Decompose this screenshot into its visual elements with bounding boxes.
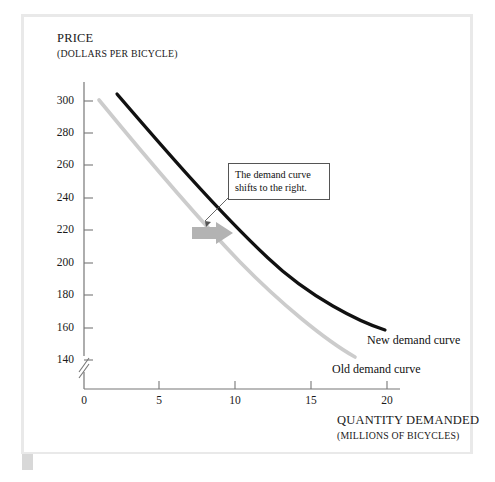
shift-annotation-callout: The demand curve shifts to the right. bbox=[228, 163, 330, 200]
y-axis-title-units: (DOLLARS PER BICYCLE) bbox=[57, 48, 178, 59]
x-tick-label-15: 15 bbox=[301, 394, 321, 406]
y-tick-label-160: 160 bbox=[50, 321, 74, 333]
y-tick-label-180: 180 bbox=[50, 288, 74, 300]
page-root: PRICE (DOLLARS PER BICYCLE) QUANTITY DEM… bbox=[0, 0, 495, 482]
y-tick-label-220: 220 bbox=[50, 223, 74, 235]
y-tick-label-200: 200 bbox=[50, 256, 74, 268]
shift-annotation-text: The demand curve shifts to the right. bbox=[235, 169, 311, 193]
chart-svg bbox=[0, 0, 495, 482]
x-tick-label-0: 0 bbox=[74, 394, 94, 406]
y-tick-label-300: 300 bbox=[50, 94, 74, 106]
shift-direction-arrow bbox=[192, 222, 233, 244]
x-tick-label-5: 5 bbox=[149, 394, 169, 406]
x-tick-label-20: 20 bbox=[377, 394, 397, 406]
new-demand-curve bbox=[117, 94, 385, 330]
old-demand-curve bbox=[99, 100, 355, 357]
old-demand-curve-label: Old demand curve bbox=[332, 362, 421, 377]
new-demand-curve-label: New demand curve bbox=[367, 333, 460, 348]
x-axis-title-primary: QUANTITY DEMANDED bbox=[337, 413, 479, 428]
x-axis-title-units: (MILLIONS OF BICYCLES) bbox=[337, 430, 460, 441]
demand-curve-figure: PRICE (DOLLARS PER BICYCLE) QUANTITY DEM… bbox=[0, 0, 495, 482]
y-axis-title-primary: PRICE bbox=[57, 31, 93, 46]
y-tick-label-240: 240 bbox=[50, 191, 74, 203]
y-tick-label-140: 140 bbox=[50, 353, 74, 365]
x-tick-marks bbox=[159, 381, 387, 389]
y-tick-label-280: 280 bbox=[50, 126, 74, 138]
y-tick-marks bbox=[84, 101, 93, 360]
y-tick-label-260: 260 bbox=[50, 158, 74, 170]
x-tick-label-10: 10 bbox=[225, 394, 245, 406]
